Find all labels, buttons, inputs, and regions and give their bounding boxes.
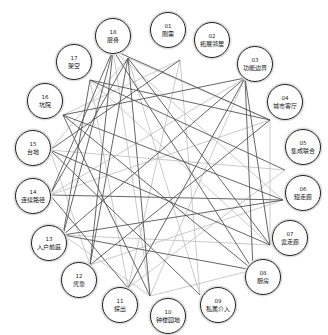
node-09: 09私属介入 <box>200 287 236 323</box>
node-label: 私属介入 <box>206 305 230 313</box>
node-15: 15台地 <box>15 130 51 166</box>
node-07: 07宽走廊 <box>272 220 308 256</box>
node-number: 04 <box>282 95 289 102</box>
edge-04-17 <box>90 80 270 120</box>
node-label: 凭靠 <box>73 280 85 288</box>
node-number: 05 <box>300 140 307 147</box>
network-diagram: 01刚需02拓展邻居03功能边界04城市客厅05集成联合06短走廊07宽走廊08… <box>0 0 328 335</box>
node-05: 05集成联合 <box>285 129 321 165</box>
node-number: 08 <box>260 270 267 277</box>
node-label: 集成联合 <box>291 147 315 155</box>
edge-01-08 <box>113 50 253 270</box>
node-number: 09 <box>215 298 222 305</box>
edge-17-07 <box>90 80 270 245</box>
node-label: 探出 <box>114 305 126 313</box>
node-label: 坑院 <box>39 101 51 109</box>
node-label: 厨房 <box>257 277 269 285</box>
edge-04-12 <box>90 120 270 265</box>
node-13: 13入户前庭 <box>31 225 67 261</box>
node-label: 连续路径 <box>21 196 45 204</box>
node-number: 10 <box>165 309 172 316</box>
node-number: 16 <box>42 94 49 101</box>
node-18: 18层叠 <box>95 18 131 54</box>
node-label: 拓展邻居 <box>200 40 224 48</box>
node-08: 08厨房 <box>245 259 281 295</box>
node-label: 城市客厅 <box>273 102 297 110</box>
node-label: 入户前庭 <box>37 243 61 251</box>
node-03: 03功能边界 <box>237 46 273 82</box>
node-04: 04城市客厅 <box>267 84 303 120</box>
node-label: 台地 <box>27 148 39 156</box>
node-10: 10钟楼园地 <box>150 298 186 334</box>
edge-08-10 <box>150 270 253 296</box>
node-number: 15 <box>30 141 37 148</box>
node-label: 架空 <box>68 62 80 70</box>
node-number: 12 <box>76 273 83 280</box>
node-06: 06短走廊 <box>285 175 321 211</box>
node-label: 钟楼园地 <box>156 316 180 324</box>
node-label: 宽走廊 <box>281 238 299 246</box>
node-11: 11探出 <box>102 287 138 323</box>
node-number: 14 <box>30 189 37 196</box>
node-12: 12凭靠 <box>61 262 97 298</box>
node-label: 刚需 <box>162 30 174 38</box>
node-number: 01 <box>165 23 172 30</box>
edge-14-18 <box>50 58 128 195</box>
node-number: 06 <box>300 186 307 193</box>
node-14: 14连续路径 <box>15 178 51 214</box>
node-number: 18 <box>110 29 117 36</box>
edge-06-16 <box>63 115 283 200</box>
node-16: 16坑院 <box>27 83 63 119</box>
node-label: 功能边界 <box>243 64 267 72</box>
edge-03-11 <box>128 78 245 288</box>
node-label: 短走廊 <box>294 193 312 201</box>
node-number: 17 <box>71 55 78 62</box>
node-01: 01刚需 <box>150 12 186 48</box>
edge-06-12 <box>90 200 283 265</box>
node-number: 03 <box>252 57 259 64</box>
node-02: 02拓展邻居 <box>194 22 230 58</box>
node-number: 11 <box>117 298 124 305</box>
node-number: 13 <box>46 236 53 243</box>
node-number: 07 <box>287 231 294 238</box>
node-label: 层叠 <box>107 36 119 44</box>
node-number: 02 <box>209 33 216 40</box>
node-17: 17架空 <box>56 44 92 80</box>
